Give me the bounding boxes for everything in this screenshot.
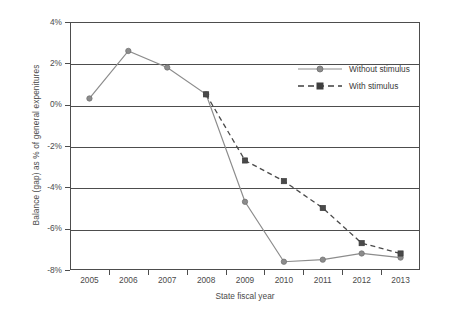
chart-legend: Without stimulus With stimulus — [296, 60, 424, 94]
x-tick-mark — [187, 270, 188, 275]
y-tick-mark — [65, 229, 70, 230]
x-tick-mark — [109, 270, 110, 275]
legend-label-with-stimulus: With stimulus — [344, 81, 398, 91]
y-tick-mark — [65, 63, 70, 64]
y-tick-label: -2% — [18, 141, 62, 151]
y-tick-mark — [65, 105, 70, 106]
y-tick-label: -4% — [18, 182, 62, 192]
x-tick-mark — [264, 270, 265, 275]
gridline-neg2pct — [71, 147, 419, 148]
x-tick-mark — [381, 270, 382, 275]
legend-label-without-stimulus: Without stimulus — [344, 64, 410, 74]
legend-item-without-stimulus: Without stimulus — [296, 60, 424, 77]
y-tick-label: 2% — [18, 58, 62, 68]
y-tick-mark — [65, 270, 70, 271]
y-tick-mark — [65, 187, 70, 188]
x-tick-mark — [342, 270, 343, 275]
legend-item-with-stimulus: With stimulus — [296, 77, 424, 94]
legend-swatch-with-stimulus — [296, 80, 344, 92]
y-tick-mark — [65, 22, 70, 23]
y-tick-label: 4% — [18, 17, 62, 27]
y-tick-mark — [65, 146, 70, 147]
x-tick-mark — [226, 270, 227, 275]
x-tick-label: 2013 — [377, 275, 425, 285]
x-tick-mark — [303, 270, 304, 275]
x-axis-title: State fiscal year — [70, 291, 420, 301]
gridline-neg4pct — [71, 188, 419, 189]
gridline-0pct — [71, 106, 419, 107]
gridline-neg6pct — [71, 230, 419, 231]
y-tick-label: 0% — [18, 99, 62, 109]
y-tick-label: -8% — [18, 265, 62, 275]
x-tick-mark — [148, 270, 149, 275]
chart-container: Balance (gap) as % of general expeniture… — [0, 0, 474, 315]
y-tick-label: -6% — [18, 223, 62, 233]
legend-swatch-without-stimulus — [296, 63, 344, 75]
